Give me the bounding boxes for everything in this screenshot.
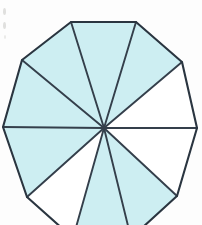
scan-artifact-icon	[3, 22, 6, 29]
scan-artifact-icon	[4, 35, 6, 39]
scan-artifact-icon	[3, 8, 6, 15]
radius-spoke-left	[3, 127, 104, 128]
figure-root	[0, 0, 202, 225]
decagon-diagram	[0, 0, 202, 225]
